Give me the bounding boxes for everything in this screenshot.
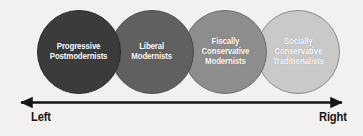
group-circle-progressive-postmodernists: Progressive Postmodernists <box>37 10 121 94</box>
group-circle-socially-conservative-traditionalists: Socially Conservative Traditionalists <box>256 10 340 94</box>
spectrum-figure: Progressive Postmodernists Liberal Moder… <box>0 0 363 136</box>
group-label-socially-conservative-traditionalists: Socially Conservative Traditionalists <box>272 37 323 66</box>
group-label-fiscally-conservative-modernists: Fiscally Conservative Modernists <box>201 37 249 66</box>
group-label-progressive-postmodernists: Progressive Postmodernists <box>50 42 108 62</box>
spectrum-axis-arrow <box>0 92 363 114</box>
axis-label-right: Right <box>319 110 347 124</box>
group-circle-fiscally-conservative-modernists: Fiscally Conservative Modernists <box>183 10 267 94</box>
group-label-liberal-modernists: Liberal Modernists <box>132 42 173 62</box>
axis-label-left: Left <box>31 110 51 124</box>
group-circle-liberal-modernists: Liberal Modernists <box>110 10 194 94</box>
